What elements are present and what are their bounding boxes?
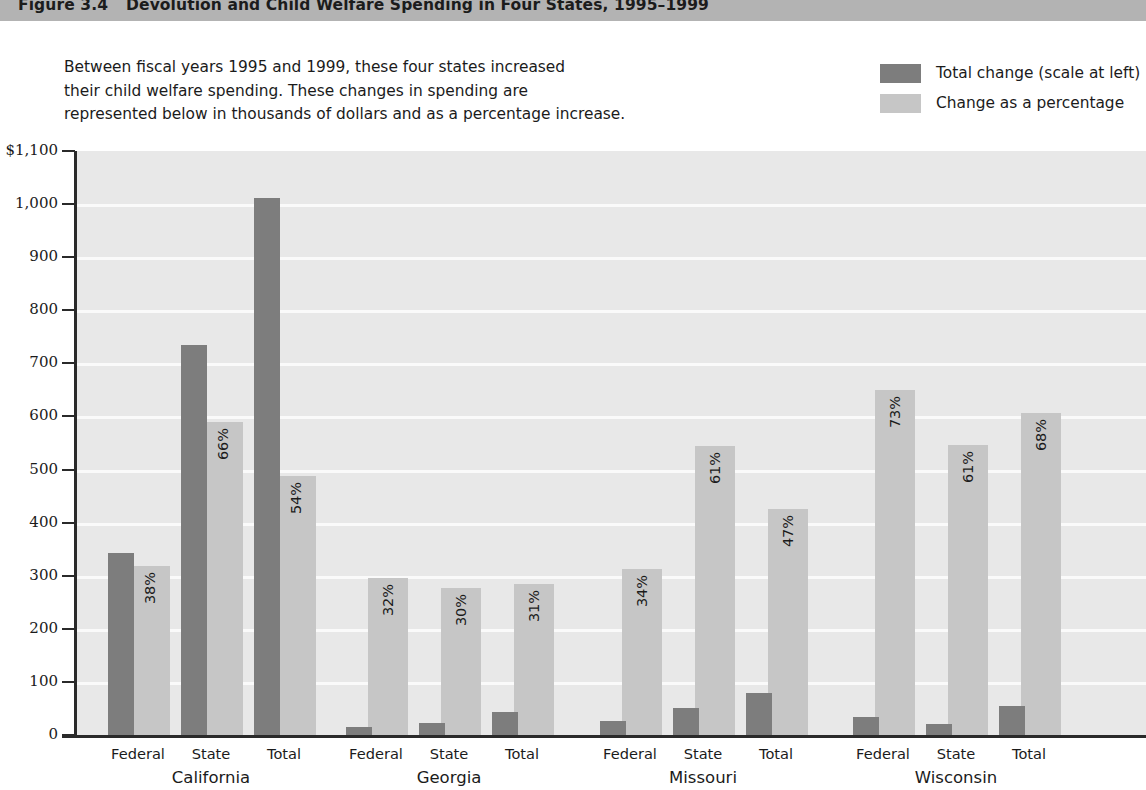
figure-number: Figure 3.4 <box>18 0 108 14</box>
bar-percentage: 31% <box>514 584 554 735</box>
bar-total-change <box>853 717 879 735</box>
x-axis-category-label: Federal <box>349 745 403 762</box>
legend-swatch-dark-icon <box>880 64 921 83</box>
bar-percentage: 73% <box>875 390 915 735</box>
gridline <box>77 257 1146 260</box>
bar-percentage: 30% <box>441 588 481 735</box>
y-axis-tick <box>62 150 75 152</box>
figure-title: Devolution and Child Welfare Spending in… <box>126 0 709 14</box>
x-axis-group-label: Missouri <box>669 768 737 787</box>
bar-percentage-label: 73% <box>887 396 903 428</box>
y-axis-tick-label: 1,000 <box>0 194 58 212</box>
legend-label-total-change: Total change (scale at left) <box>936 64 1140 82</box>
y-axis-tick <box>62 309 75 311</box>
figure-title-text: Figure 3.4Devolution and Child Welfare S… <box>18 0 709 14</box>
legend-swatch-light-icon <box>880 94 921 113</box>
bar-percentage: 61% <box>948 445 988 735</box>
bar-total-change <box>492 712 518 735</box>
bar-percentage: 32% <box>368 578 408 735</box>
x-axis-category-label: Total <box>267 745 301 762</box>
y-axis-tick-label: 100 <box>0 672 58 690</box>
figure-title-bar: Figure 3.4Devolution and Child Welfare S… <box>0 0 1146 21</box>
bar-percentage-label: 31% <box>526 590 542 622</box>
x-axis-group-label: California <box>172 768 250 787</box>
gridline <box>77 416 1146 419</box>
y-axis-tick-label: 400 <box>0 513 58 531</box>
y-axis-tick-label: $1,100 <box>0 141 58 159</box>
y-axis-tick-label: 200 <box>0 619 58 637</box>
bar-total-change <box>346 727 372 735</box>
bar-percentage-label: 47% <box>780 515 796 547</box>
bar-percentage-label: 38% <box>142 572 158 604</box>
x-axis-category-label: Federal <box>856 745 910 762</box>
x-axis-category-label: Total <box>1012 745 1046 762</box>
y-axis-line <box>74 151 77 736</box>
y-axis-tick-label: 700 <box>0 353 58 371</box>
x-axis-group-label: Georgia <box>417 768 482 787</box>
x-axis-category-label: State <box>937 745 976 762</box>
y-axis-tick <box>62 522 75 524</box>
bar-percentage: 54% <box>276 476 316 735</box>
bar-total-change <box>600 721 626 735</box>
y-axis-tick <box>62 256 75 258</box>
caption-line-3: represented below in thousands of dollar… <box>64 103 624 127</box>
y-axis-tick <box>62 681 75 683</box>
y-axis-tick-label: 500 <box>0 460 58 478</box>
bar-total-change <box>181 345 207 735</box>
x-axis-category-label: Total <box>759 745 793 762</box>
bar-total-change <box>108 553 134 735</box>
bar-percentage: 61% <box>695 446 735 735</box>
bar-percentage-label: 61% <box>960 450 976 482</box>
bar-percentage: 34% <box>622 569 662 735</box>
y-axis-tick-label: 800 <box>0 300 58 318</box>
bar-total-change <box>254 198 280 735</box>
bar-percentage: 38% <box>130 566 170 735</box>
x-axis-category-label: Federal <box>111 745 165 762</box>
gridline <box>77 310 1146 313</box>
y-axis-tick <box>62 415 75 417</box>
caption-line-1: Between fiscal years 1995 and 1999, thes… <box>64 56 624 80</box>
bar-percentage-label: 68% <box>1033 419 1049 451</box>
y-axis-tick <box>62 203 75 205</box>
legend-item-total-change: Total change (scale at left) <box>880 58 1140 88</box>
x-axis-group-label: Wisconsin <box>915 768 997 787</box>
y-axis-tick-label: 0 <box>0 725 58 743</box>
bar-total-change <box>419 723 445 735</box>
y-axis-tick <box>62 734 75 736</box>
y-axis-tick-label: 900 <box>0 247 58 265</box>
x-axis-category-label: State <box>192 745 231 762</box>
y-axis-tick-label: 300 <box>0 566 58 584</box>
bar-percentage-label: 34% <box>634 575 650 607</box>
bar-percentage-label: 61% <box>707 452 723 484</box>
bar-percentage-label: 32% <box>380 584 396 616</box>
y-axis-tick <box>62 575 75 577</box>
x-axis-category-label: State <box>684 745 723 762</box>
legend-item-change-percentage: Change as a percentage <box>880 88 1140 118</box>
bar-percentage-label: 54% <box>288 482 304 514</box>
x-axis-category-label: Federal <box>603 745 657 762</box>
bar-percentage: 66% <box>203 422 243 735</box>
gridline <box>77 363 1146 366</box>
y-axis-tick <box>62 628 75 630</box>
x-axis-category-label: Total <box>505 745 539 762</box>
bar-percentage-label: 30% <box>453 594 469 626</box>
figure-caption: Between fiscal years 1995 and 1999, thes… <box>64 56 624 127</box>
bar-total-change <box>746 693 772 735</box>
bar-total-change <box>673 708 699 735</box>
legend-label-change-percentage: Change as a percentage <box>936 94 1124 112</box>
caption-line-2: their child welfare spending. These chan… <box>64 80 624 104</box>
bar-total-change <box>926 724 952 735</box>
y-axis-tick-label: 600 <box>0 406 58 424</box>
x-axis-category-label: State <box>430 745 469 762</box>
bar-total-change <box>999 706 1025 735</box>
y-axis-tick <box>62 362 75 364</box>
bar-percentage-label: 66% <box>215 428 231 460</box>
gridline <box>77 204 1146 207</box>
bar-percentage: 47% <box>768 509 808 735</box>
bar-percentage: 68% <box>1021 413 1061 735</box>
y-axis-tick <box>62 469 75 471</box>
x-axis-line <box>62 735 1146 738</box>
chart-legend: Total change (scale at left) Change as a… <box>880 58 1140 118</box>
